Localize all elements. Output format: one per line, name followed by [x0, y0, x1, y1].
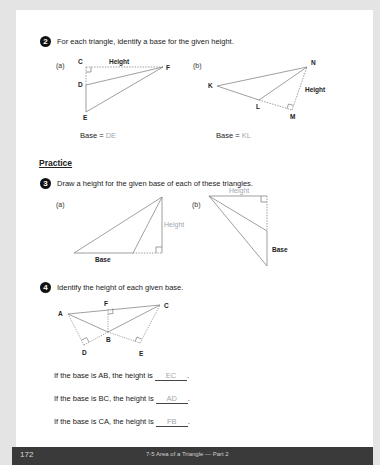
vertex-f: F — [166, 64, 170, 71]
triangle-q4 — [68, 305, 160, 345]
vertex-c: C — [78, 58, 83, 65]
q2a-base-answer: Base = DE — [80, 131, 116, 140]
question-3-prompt: Draw a height for the given base of each… — [57, 179, 253, 188]
vertex-e: E — [83, 114, 87, 121]
vertex-l: L — [256, 103, 260, 110]
q3a-height-label: Height — [164, 221, 184, 228]
sentence-text: If the base is CA, the height is — [54, 417, 156, 426]
footer-title: 7-5 Area of a Triangle — Part 2 — [146, 451, 229, 457]
answer-de: DE — [106, 131, 116, 140]
vertex-e-q4: E — [139, 350, 143, 357]
q2b-base-answer: Base = KL — [216, 131, 251, 140]
question-number-3: 3 — [40, 178, 51, 189]
vertex-c-q4: C — [164, 302, 169, 309]
q2a-sublabel: (a) — [56, 62, 65, 69]
sentence-text: If the base is BC, the height is — [54, 394, 156, 403]
page-number: 172 — [20, 450, 33, 459]
q2b-height-label: Height — [305, 86, 325, 93]
triangle-kln — [217, 67, 307, 110]
q3b-height-label: Height — [229, 187, 249, 194]
vertex-d: D — [78, 81, 83, 88]
q3a-base-label: Base — [95, 256, 111, 263]
base-prefix: Base = — [216, 131, 242, 140]
vertex-m: M — [290, 113, 295, 120]
question-2-prompt: For each triangle, identify a base for t… — [57, 37, 234, 46]
vertex-d-q4: D — [82, 349, 87, 356]
q4-sentence-bc: If the base is BC, the height is AD. — [54, 394, 190, 404]
question-4-prompt: Identify the height of each given base. — [57, 283, 183, 292]
triangle-q3a — [74, 197, 162, 253]
page-footer: 172 7-5 Area of a Triangle — Part 2 — [12, 447, 373, 465]
q2a-height-label: Height — [109, 58, 129, 65]
sentence-end: . — [188, 394, 190, 403]
sentence-end: . — [188, 417, 190, 426]
answer-kl: KL — [242, 131, 251, 140]
sentence-text: If the base is AB, the height is — [54, 371, 155, 380]
q3b-base-label: Base — [272, 246, 288, 253]
question-number-2: 2 — [40, 36, 51, 47]
answer-blank-ad: AD — [156, 394, 188, 404]
vertex-b: B — [106, 336, 111, 343]
q3b-sublabel: (b) — [192, 201, 201, 208]
q4-sentence-ca: If the base is CA, the height is FB. — [54, 417, 190, 427]
triangle-q3b — [209, 196, 267, 266]
vertex-n: N — [311, 59, 316, 66]
sentence-end: . — [187, 371, 189, 380]
question-number-4: 4 — [40, 282, 51, 293]
answer-blank-fb: FB — [156, 417, 188, 427]
vertex-f-q4: F — [104, 300, 108, 307]
q4-sentence-ab: If the base is AB, the height is EC. — [54, 371, 189, 381]
answer-blank-ec: EC — [155, 371, 187, 381]
q2b-sublabel: (b) — [193, 62, 202, 69]
triangle-def — [86, 67, 163, 112]
vertex-k: K — [208, 82, 213, 89]
q3a-sublabel: (a) — [56, 201, 65, 208]
vertex-a: A — [58, 310, 63, 317]
practice-heading: Practice — [39, 158, 72, 168]
base-prefix: Base = — [80, 131, 106, 140]
